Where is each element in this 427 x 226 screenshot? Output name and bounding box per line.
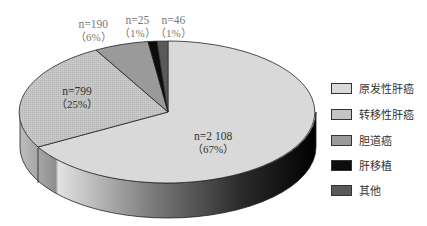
label-other: n=46 （1%） xyxy=(155,14,192,40)
legend-item-primary: 原发性肝癌 xyxy=(331,80,414,96)
legend-swatch xyxy=(331,185,352,196)
label-primary: n=2 108 （67%） xyxy=(192,130,234,156)
label-biliary: n=190 （6%） xyxy=(75,18,112,44)
legend-item-other: 其他 xyxy=(331,182,381,198)
legend-swatch xyxy=(331,109,352,120)
label-metastatic: n=799 （25%） xyxy=(56,85,98,111)
legend-swatch xyxy=(331,160,352,171)
label-transplant: n=25 （1%） xyxy=(119,14,156,40)
legend-item-metastatic: 转移性肝癌 xyxy=(331,106,414,122)
legend-swatch xyxy=(331,83,352,94)
legend-swatch xyxy=(331,135,352,146)
legend-item-biliary: 胆道癌 xyxy=(331,132,392,148)
legend-item-transplant: 肝移植 xyxy=(331,157,392,173)
